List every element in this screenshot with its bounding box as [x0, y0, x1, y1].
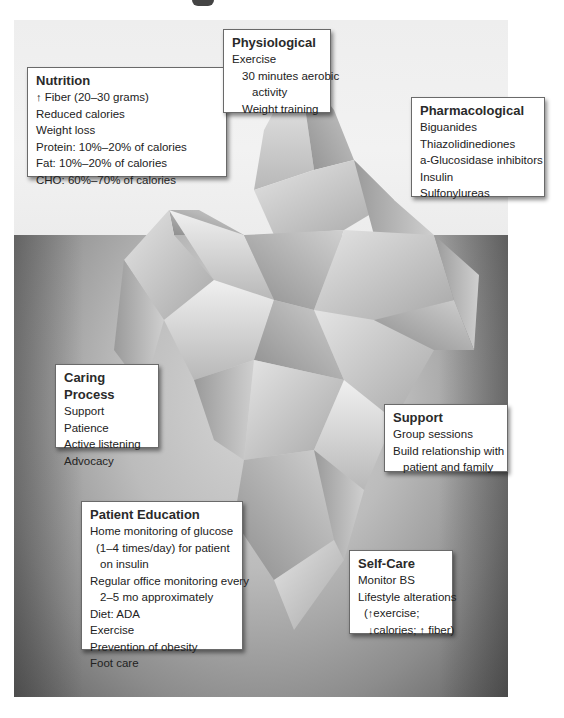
- support-box: Support Group sessions Build relationshi…: [384, 404, 508, 472]
- pharmacological-line: a-Glucosidase inhibitors: [420, 152, 536, 169]
- patient-education-title: Patient Education: [90, 506, 234, 523]
- pharmacological-line: Insulin: [420, 169, 536, 186]
- nutrition-line: ↑ Fiber (20–30 grams): [36, 89, 218, 106]
- patient-education-line: 2–5 mo approximately: [90, 589, 234, 606]
- caring-process-line: Support: [64, 403, 150, 420]
- pharmacological-box: Pharmacological Biguanides Thiazolidined…: [411, 97, 545, 197]
- patient-education-line: (1–4 times/day) for patient: [90, 540, 234, 557]
- caring-process-line: Active listening: [64, 436, 150, 453]
- caring-process-line: Advocacy: [64, 453, 150, 470]
- patient-education-line: Prevention of obesity: [90, 639, 234, 656]
- cropped-heading-glyph: [192, 0, 214, 6]
- patient-education-line: Diet: ADA: [90, 606, 234, 623]
- nutrition-title: Nutrition: [36, 72, 218, 89]
- self-care-line: (↑exercise;: [358, 605, 444, 622]
- nutrition-line: Protein: 10%–20% of calories: [36, 139, 218, 156]
- self-care-title: Self-Care: [358, 555, 444, 572]
- patient-education-line: Home monitoring of glucose: [90, 523, 234, 540]
- pharmacological-line: Sulfonylureas: [420, 185, 536, 202]
- caring-process-title: Caring Process: [64, 369, 150, 403]
- physiological-title: Physiological: [232, 34, 322, 51]
- nutrition-line: Weight loss: [36, 122, 218, 139]
- support-line: Build relationship with: [393, 443, 499, 460]
- patient-education-line: Exercise: [90, 622, 234, 639]
- self-care-line: Lifestyle alterations: [358, 589, 444, 606]
- pharmacological-line: Biguanides: [420, 119, 536, 136]
- caring-process-line: Patience: [64, 420, 150, 437]
- support-line: Group sessions: [393, 426, 499, 443]
- caring-process-box: Caring Process Support Patience Active l…: [55, 364, 159, 448]
- pharmacological-line: Thiazolidinediones: [420, 136, 536, 153]
- patient-education-box: Patient Education Home monitoring of glu…: [81, 501, 243, 650]
- nutrition-box: Nutrition ↑ Fiber (20–30 grams) Reduced …: [27, 67, 227, 177]
- physiological-box: Physiological Exercise 30 minutes aerobi…: [223, 29, 331, 113]
- support-line: patient and family: [393, 459, 499, 476]
- patient-education-line: on insulin: [90, 556, 234, 573]
- support-title: Support: [393, 409, 499, 426]
- patient-education-line: Regular office monitoring every: [90, 573, 234, 590]
- nutrition-line: CHO: 60%–70% of calories: [36, 172, 218, 189]
- self-care-box: Self-Care Monitor BS Lifestyle alteratio…: [349, 550, 453, 634]
- self-care-line: ↓calories; ↑ fiber): [358, 622, 444, 639]
- pharmacological-title: Pharmacological: [420, 102, 536, 119]
- physiological-line: activity: [232, 84, 322, 101]
- patient-education-line: Foot care: [90, 655, 234, 672]
- nutrition-line: Fat: 10%–20% of calories: [36, 155, 218, 172]
- nutrition-line: Reduced calories: [36, 106, 218, 123]
- physiological-line: 30 minutes aerobic: [232, 68, 322, 85]
- physiological-line: Weight training: [232, 101, 322, 118]
- self-care-line: Monitor BS: [358, 572, 444, 589]
- physiological-line: Exercise: [232, 51, 322, 68]
